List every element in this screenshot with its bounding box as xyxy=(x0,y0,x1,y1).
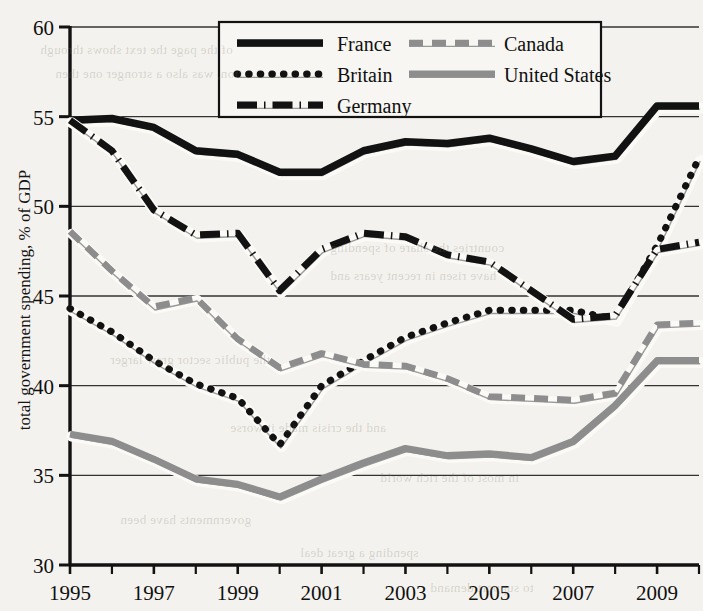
series-lines xyxy=(70,106,701,500)
y-axis-title: total government spending, % of GDP xyxy=(15,170,34,431)
x-tick-label: 1999 xyxy=(217,581,259,605)
y-tick-label: 30 xyxy=(33,554,54,578)
legend-label: United States xyxy=(504,64,611,86)
x-tick-label: 2005 xyxy=(468,581,510,605)
x-tick-labels: 19951997199920012003200520072009 xyxy=(49,565,699,605)
series-halo xyxy=(72,363,701,499)
chart-legend: FranceBritainGermanyCanadaUnited States xyxy=(219,22,611,118)
legend-label: Canada xyxy=(504,33,564,55)
y-tick-label: 40 xyxy=(33,375,54,399)
x-tick-label: 2003 xyxy=(384,581,426,605)
y-tick-labels: 30354045505560 xyxy=(33,16,70,578)
x-tick-label: 1995 xyxy=(49,581,91,605)
y-axis-title-text: total government spending, % of GDP xyxy=(15,170,34,431)
legend-label: Germany xyxy=(337,95,411,118)
series-line xyxy=(70,361,699,497)
x-tick-label: 1997 xyxy=(133,581,175,605)
y-tick-label: 55 xyxy=(33,106,54,130)
x-tick-label: 2001 xyxy=(301,581,343,605)
y-tick-label: 50 xyxy=(33,195,54,219)
y-tick-label: 60 xyxy=(33,16,54,40)
series-united-states xyxy=(70,361,701,500)
x-tick-label: 2009 xyxy=(636,581,678,605)
chart-figure: of the page the text shows through tion,… xyxy=(0,0,703,611)
y-tick-label: 35 xyxy=(33,464,54,488)
legend-label: Britain xyxy=(337,64,393,86)
x-tick-label: 2007 xyxy=(552,581,594,605)
line-chart: total government spending, % of GDP 3035… xyxy=(0,0,703,611)
legend-label: France xyxy=(337,33,392,55)
series-contour xyxy=(71,364,700,500)
y-tick-label: 45 xyxy=(33,285,54,309)
